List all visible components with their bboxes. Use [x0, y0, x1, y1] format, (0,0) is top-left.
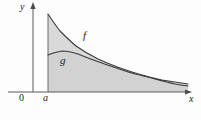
- plot-canvas: [0, 0, 201, 120]
- curve-label-g: g: [60, 55, 66, 66]
- figure-container: y x 0 a f g: [0, 0, 201, 120]
- y-axis-label: y: [20, 2, 24, 12]
- origin-label: 0: [19, 93, 24, 103]
- x-tick-label-a: a: [43, 93, 48, 103]
- x-axis-label: x: [189, 94, 193, 104]
- region-under-g-fill: [48, 51, 188, 92]
- y-axis-arrow-icon: [30, 2, 35, 9]
- curve-label-f: f: [83, 30, 86, 41]
